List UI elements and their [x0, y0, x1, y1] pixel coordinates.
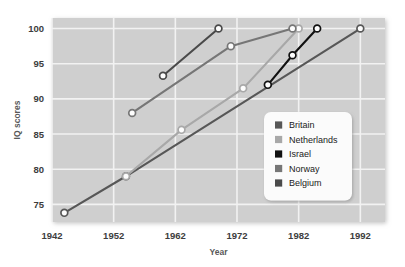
legend-item-label: Netherlands: [289, 135, 338, 145]
x-tick-label: 1942: [41, 230, 62, 241]
data-point: [289, 25, 296, 32]
legend-item-label: Britain: [289, 120, 315, 130]
data-point: [314, 25, 321, 32]
legend-item-label: Belgium: [289, 178, 322, 188]
legend-swatch-icon: [275, 121, 282, 128]
x-tick-label: 1952: [103, 230, 124, 241]
y-axis-title: IQ scores: [12, 100, 22, 139]
x-tick-label: 1972: [226, 230, 247, 241]
x-tick-label: 1982: [288, 230, 309, 241]
y-tick-label: 85: [33, 129, 44, 140]
data-point: [129, 110, 136, 117]
data-point: [264, 81, 271, 88]
chart-legend: BritainNetherlandsIsraelNorwayBelgium: [264, 112, 352, 201]
iq-scores-line-chart: 7580859095100194219521962197219821992Yea…: [0, 0, 405, 267]
legend-swatch-icon: [275, 165, 282, 172]
data-point: [289, 52, 296, 59]
data-point: [178, 126, 185, 133]
x-tick-label: 1992: [350, 230, 371, 241]
data-point: [227, 43, 234, 50]
x-axis-tick-labels: 194219521962197219821992: [41, 230, 370, 241]
legend-item-label: Israel: [289, 149, 311, 159]
y-tick-label: 100: [28, 23, 44, 34]
data-point: [215, 25, 222, 32]
y-tick-label: 90: [33, 93, 44, 104]
legend-item-label: Norway: [289, 164, 320, 174]
y-tick-label: 80: [33, 164, 44, 175]
legend-swatch-icon: [275, 136, 282, 143]
chart-canvas: 7580859095100194219521962197219821992Yea…: [0, 0, 405, 267]
data-point: [160, 72, 167, 79]
data-point: [357, 25, 364, 32]
legend-swatch-icon: [275, 150, 282, 157]
data-point: [61, 209, 68, 216]
x-axis-title: Year: [210, 247, 229, 257]
y-axis-tick-labels: 7580859095100: [28, 23, 45, 210]
data-point: [240, 85, 247, 92]
data-point: [123, 173, 130, 180]
x-tick-label: 1962: [165, 230, 186, 241]
legend-swatch-icon: [275, 179, 282, 186]
y-tick-label: 95: [33, 58, 44, 69]
y-tick-label: 75: [33, 199, 44, 210]
